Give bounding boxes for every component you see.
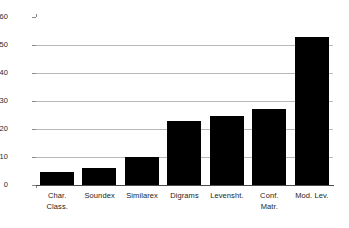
x-tick-label-line1: Digrams bbox=[170, 191, 199, 200]
plot-area bbox=[36, 17, 333, 185]
bar-char-class[interactable] bbox=[40, 172, 74, 185]
x-tick-label-conf-matr: Conf. Matr. bbox=[248, 190, 290, 212]
x-tick-label-mod-lev: Mod. Lev. bbox=[291, 190, 333, 201]
x-tick-label-line1: Soundex bbox=[84, 191, 114, 200]
bar-similarex[interactable] bbox=[125, 157, 159, 185]
x-tick-label-soundex: Soundex bbox=[78, 190, 120, 201]
bar-slot-similarex bbox=[121, 17, 163, 185]
bar-slot-soundex bbox=[78, 17, 120, 185]
x-tick-label-similarex: Similarex bbox=[121, 190, 163, 201]
bar-mod-lev[interactable] bbox=[295, 37, 329, 185]
y-tick-label-30: 30 bbox=[0, 97, 8, 105]
bar-slot-digrams bbox=[163, 17, 205, 185]
x-tick-label-digrams: Digrams bbox=[163, 190, 205, 201]
x-axis-line bbox=[36, 185, 334, 186]
x-axis-tick-labels: Char. Class. Soundex Similarex Digrams L… bbox=[36, 190, 333, 224]
x-tick-label-line1: Conf. bbox=[260, 191, 278, 200]
x-tick-label-line2: Matr. bbox=[248, 201, 290, 212]
x-tick-label-levensht: Levensht. bbox=[206, 190, 248, 201]
y-tick-label-20: 20 bbox=[0, 125, 8, 133]
bar-digrams[interactable] bbox=[167, 121, 201, 185]
bar-slot-conf-matr bbox=[248, 17, 290, 185]
bar-chart-figure: 60 50 40 30 20 10 0 bbox=[0, 0, 349, 228]
y-tick-label-50: 50 bbox=[0, 41, 8, 49]
bar-soundex[interactable] bbox=[82, 168, 116, 185]
bars-layer bbox=[36, 17, 333, 185]
y-tick-label-40: 40 bbox=[0, 69, 8, 77]
y-tick-label-0: 0 bbox=[0, 181, 8, 189]
x-tick-label-line1: Levensht. bbox=[210, 191, 243, 200]
bar-slot-mod-lev bbox=[291, 17, 333, 185]
x-tick-label-line2: Class. bbox=[36, 201, 78, 212]
x-tick-label-line1: Mod. Lev. bbox=[295, 191, 328, 200]
y-tick-label-60: 60 bbox=[0, 13, 8, 21]
bar-conf-matr[interactable] bbox=[252, 109, 286, 185]
y-tick-label-10: 10 bbox=[0, 153, 8, 161]
x-tick-label-char-class: Char. Class. bbox=[36, 190, 78, 212]
x-tick-label-line1: Similarex bbox=[126, 191, 158, 200]
x-tick-label-line1: Char. bbox=[48, 191, 66, 200]
bar-levensht[interactable] bbox=[210, 116, 244, 185]
bar-slot-levensht bbox=[206, 17, 248, 185]
bar-slot-char-class bbox=[36, 17, 78, 185]
